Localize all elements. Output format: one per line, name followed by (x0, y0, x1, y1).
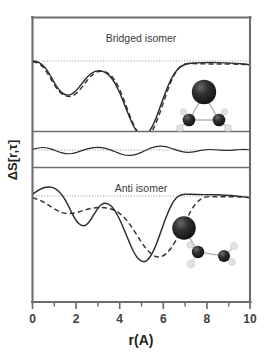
hydrogen-atom (229, 259, 236, 266)
hydrogen-atom (224, 124, 231, 131)
hydrogen-atom (230, 242, 237, 249)
hydrogen-atom (221, 109, 227, 115)
hydrogen-atom (180, 109, 186, 115)
bromine-atom (192, 80, 216, 104)
x-tick-labels: 0 2 4 6 8 10 (29, 312, 257, 326)
carbon-atom (213, 114, 226, 127)
hydrogen-atom (176, 124, 183, 131)
carbon-atom (192, 246, 204, 258)
x-tick-label-10: 10 (243, 312, 257, 326)
panel-label-anti-isomer: Anti isomer (115, 182, 168, 194)
hydrogen-atom (187, 242, 193, 248)
x-tick-label-0: 0 (29, 312, 36, 326)
panel-label-bridged-isomer: Bridged isomer (106, 32, 177, 44)
carbon-atom (183, 114, 196, 127)
panel-residual (33, 146, 250, 155)
residual-curve (33, 146, 250, 155)
plot-svg: 0 2 4 6 8 10 r(A) ΔS[r,τ] (0, 0, 267, 357)
x-tick-label-6: 6 (160, 312, 167, 326)
hydrogen-atom (187, 260, 195, 268)
y-axis-title: ΔS[r,τ] (5, 140, 20, 180)
anti-isomer-molecule (172, 216, 237, 268)
bromine-atom (172, 216, 196, 240)
x-tick-label-8: 8 (204, 312, 211, 326)
x-tick-label-4: 4 (116, 312, 123, 326)
anti-experiment-curve (33, 187, 250, 262)
bridged-isomer-molecule (176, 80, 231, 132)
axes-frame (32, 17, 251, 302)
panel-anti-isomer (33, 187, 250, 262)
x-axis-title: r(A) (129, 332, 154, 348)
carbon-atom (218, 250, 230, 262)
figure-container: 0 2 4 6 8 10 r(A) ΔS[r,τ] (0, 0, 267, 357)
x-tick-label-2: 2 (73, 312, 80, 326)
anti-theory-curve (33, 197, 250, 257)
